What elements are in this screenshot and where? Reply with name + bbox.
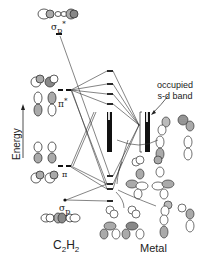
correlation-lines <box>60 36 139 201</box>
pi-star-label: π* <box>58 98 67 109</box>
pi-label: π <box>62 171 67 179</box>
pi-orbital-icon <box>31 142 58 183</box>
left-fragment-label: C2H2 <box>53 239 79 254</box>
mo-diagram <box>0 0 209 271</box>
metal-band <box>138 112 150 152</box>
sigma-p-star-orbital-icon <box>38 9 78 19</box>
sigma-p-star-label: σp* <box>51 21 66 35</box>
annotation-occupied-band: occupied s-d band <box>157 80 193 102</box>
pi-star-orbital-icon <box>31 75 58 116</box>
sigma-p-label: σp <box>59 204 70 216</box>
right-fragment-label: Metal <box>140 243 167 254</box>
energy-axis-label: Energy <box>12 128 22 160</box>
